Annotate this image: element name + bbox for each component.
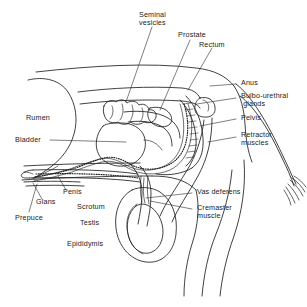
leader-anus — [210, 84, 236, 86]
ventral-belly-line — [152, 176, 196, 190]
hind-leg-front — [184, 190, 198, 296]
anatomy-diagram-figure: Seminal vesicles Prostate Rectum Anus Bu… — [0, 0, 307, 307]
pelvis-outline-inner — [180, 100, 196, 166]
label-bladder: Bladder — [15, 136, 41, 144]
scrotum-outline — [116, 188, 177, 263]
label-glans: Glans — [36, 198, 56, 206]
label-prostate: Prostate — [178, 31, 206, 39]
anatomy-drawing — [0, 0, 307, 307]
glans-outline — [21, 170, 33, 178]
leader-cremaster-muscle — [150, 201, 192, 209]
label-rectum: Rectum — [199, 41, 225, 49]
leader-pelvis — [200, 119, 236, 126]
label-bulbo-urethral-glands: Bulbo-urethral glands — [241, 92, 288, 109]
label-seminal-vesicles: Seminal vesicles — [139, 11, 166, 28]
leader-seminal-vesicles — [126, 27, 152, 102]
label-pelvis: Pelvis — [241, 114, 261, 122]
hind-leg-far — [220, 160, 245, 296]
rectum-lower — [80, 100, 200, 108]
urethra-lower-wall — [128, 121, 172, 146]
label-rumen: Rumen — [26, 114, 50, 122]
vas-deferens-line — [143, 178, 145, 203]
retractor-muscle-1 — [160, 120, 204, 216]
rumen-outline — [28, 79, 76, 179]
label-penis: Penis — [63, 188, 82, 196]
label-scrotum: Scrotum — [77, 203, 105, 211]
label-prepuce: Prepuce — [15, 214, 43, 222]
glans-tip-detail — [24, 172, 33, 174]
label-anus: Anus — [241, 79, 258, 87]
bladder-neck — [144, 140, 162, 150]
leader-bladder — [50, 140, 126, 142]
label-testis: Testis — [80, 219, 99, 227]
label-retractor-muscles: Retractor muscles — [241, 131, 272, 148]
label-cremaster-muscle: Cremaster muscle — [197, 204, 232, 221]
leader-rectum — [188, 48, 212, 90]
leader-lines — [29, 27, 236, 212]
label-vas-deferens: Vas deferens — [197, 188, 241, 196]
prepuce-outline-upper — [24, 181, 80, 182]
leader-prostate — [160, 40, 190, 110]
anus-fold — [203, 100, 209, 111]
label-epididymis: Epididymis — [67, 240, 103, 248]
rectum-upper — [78, 87, 200, 98]
testis-outline — [127, 204, 163, 253]
leader-retractor-muscles — [208, 137, 236, 142]
tail-switch-hairs — [284, 176, 306, 205]
leader-bulbo-urethral — [197, 98, 236, 104]
